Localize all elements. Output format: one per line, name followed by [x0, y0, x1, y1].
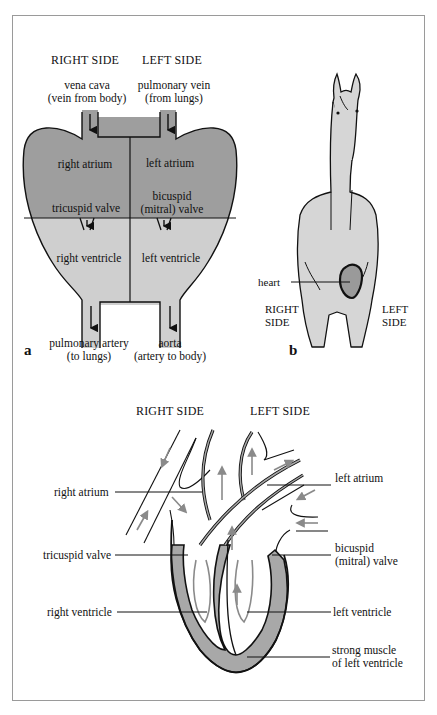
panel-c-left-side-header: LEFT SIDE [250, 405, 310, 418]
panel-c-left-atrium-label: left atrium [335, 472, 383, 485]
panel-c-right-ventricle-label: right ventricle [47, 606, 112, 619]
panel-c-tricuspid-valve-label: tricuspid valve [43, 549, 111, 562]
panel-c-bicuspid-label: bicuspid [335, 542, 374, 555]
panel-c-left-ventricle-label: left ventricle [333, 606, 391, 619]
panel-c-right-side-header: RIGHT SIDE [136, 405, 204, 418]
panel-c-mitral-valve-label: (mitral) valve [335, 555, 398, 568]
strong-muscle-sublabel: of left ventricle [332, 657, 403, 670]
panel-c-right-atrium-label: right atrium [54, 486, 109, 499]
strong-muscle-label: strong muscle [332, 644, 396, 657]
ventricle-muscle-wall [171, 545, 287, 672]
